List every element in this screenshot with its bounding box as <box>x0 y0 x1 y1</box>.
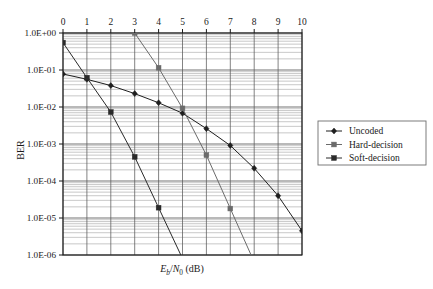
x-tick-label: 10 <box>297 17 307 27</box>
y-tick-label: 1.0E-03 <box>27 139 57 149</box>
legend-marker-2 <box>332 156 337 161</box>
x-tick-label: 8 <box>252 17 257 27</box>
y-axis-title-text: BER <box>15 140 26 160</box>
y-tick-label: 1.0E-02 <box>27 102 57 112</box>
y-tick-label: 1.0E-04 <box>27 176 57 186</box>
x-title-e: E <box>159 263 166 274</box>
y-tick-label: 1.0E-06 <box>27 250 57 260</box>
x-tick-label: 9 <box>276 17 281 27</box>
x-tick-label: 0 <box>61 17 66 27</box>
data-point-marker <box>85 75 90 80</box>
y-tick-label: 1.0E-05 <box>27 213 57 223</box>
legend-marker-1 <box>332 142 337 147</box>
x-tick-label: 6 <box>204 17 209 27</box>
x-tick-label: 2 <box>108 17 113 27</box>
legend-label-uncoded: Uncoded <box>349 126 384 136</box>
chart-legend: UncodedHard-decisionSoft-decision <box>318 121 426 165</box>
x-tick-label: 4 <box>156 17 161 27</box>
data-point-marker <box>180 106 185 111</box>
ber-performance-chart: 012345678910 1.0E+001.0E-011.0E-021.0E-0… <box>0 0 433 289</box>
data-point-marker <box>228 206 233 211</box>
y-axis-title: BER <box>15 140 26 160</box>
x-tick-label: 1 <box>85 17 90 27</box>
y-tick-label: 1.0E+00 <box>25 28 57 38</box>
legend-label-soft-decision: Soft-decision <box>349 153 400 163</box>
data-point-marker <box>132 154 137 159</box>
y-tick-label: 1.0E-01 <box>27 65 57 75</box>
data-point-marker <box>204 153 209 158</box>
x-tick-label: 7 <box>228 17 233 27</box>
x-tick-label: 5 <box>180 17 185 27</box>
data-point-marker <box>156 65 161 70</box>
chart-canvas: 012345678910 1.0E+001.0E-011.0E-021.0E-0… <box>0 0 433 289</box>
data-point-marker <box>156 205 161 210</box>
data-point-marker <box>108 110 113 115</box>
legend-label-hard-decision: Hard-decision <box>349 140 403 150</box>
x-tick-label: 3 <box>132 17 137 27</box>
